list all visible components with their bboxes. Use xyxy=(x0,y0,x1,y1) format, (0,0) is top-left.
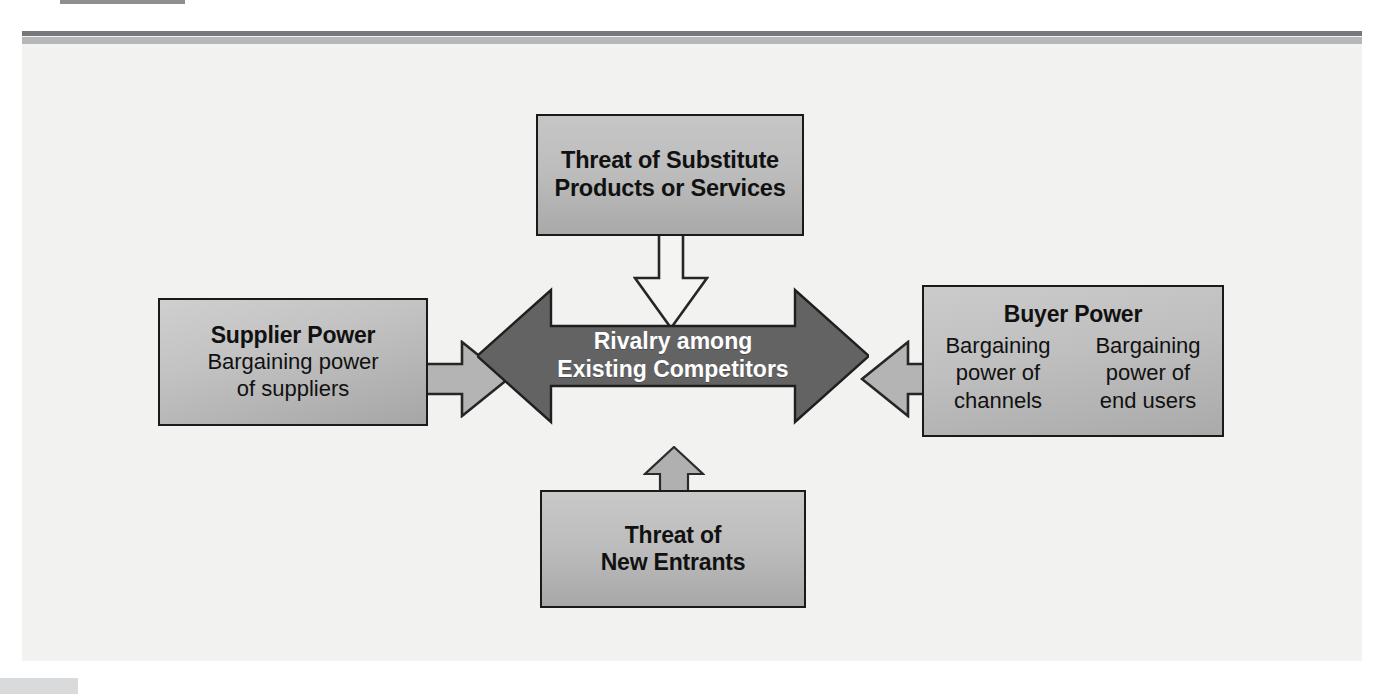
supplier-title: Supplier Power xyxy=(211,322,376,349)
diagram-stage: Threat of Substitute Products or Service… xyxy=(22,31,1362,661)
diagram-panel: Threat of Substitute Products or Service… xyxy=(22,31,1362,661)
entrants-title-line2: New Entrants xyxy=(601,549,746,576)
buyer-endusers-line3: end users xyxy=(1086,387,1210,414)
center-arrow-rivalry[interactable]: Rivalry among Existing Competitors xyxy=(477,286,869,426)
page-edge-artifact-top xyxy=(60,0,185,4)
force-box-buyer-power[interactable]: Buyer Power Bargaining power of channels… xyxy=(922,285,1224,437)
buyer-column-end-users: Bargaining power of end users xyxy=(1086,332,1210,414)
supplier-line2: of suppliers xyxy=(237,376,350,403)
buyer-channels-line1: Bargaining xyxy=(936,332,1060,359)
page-edge-artifact-bottom xyxy=(0,678,78,694)
substitutes-title-line1: Threat of Substitute xyxy=(561,147,779,175)
buyer-column-channels: Bargaining power of channels xyxy=(936,332,1060,414)
buyer-endusers-line2: power of xyxy=(1086,359,1210,386)
buyer-columns: Bargaining power of channels Bargaining … xyxy=(936,332,1210,414)
entrants-title-line1: Threat of xyxy=(625,522,722,549)
supplier-line1: Bargaining power xyxy=(207,349,378,376)
buyer-channels-line2: power of xyxy=(936,359,1060,386)
buyer-endusers-line1: Bargaining xyxy=(1086,332,1210,359)
force-box-supplier-power[interactable]: Supplier Power Bargaining power of suppl… xyxy=(158,298,428,426)
buyer-channels-line3: channels xyxy=(936,387,1060,414)
force-box-threat-of-substitutes[interactable]: Threat of Substitute Products or Service… xyxy=(536,114,804,236)
substitutes-title-line2: Products or Services xyxy=(554,175,785,203)
force-box-threat-of-new-entrants[interactable]: Threat of New Entrants xyxy=(540,490,806,608)
buyer-title: Buyer Power xyxy=(1004,301,1142,328)
page-root: Threat of Substitute Products or Service… xyxy=(0,0,1389,699)
